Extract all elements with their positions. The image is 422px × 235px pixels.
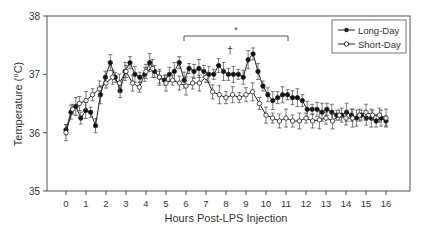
legend: Long-Day Short-Day — [332, 20, 406, 53]
x-tick-label: 11 — [281, 198, 291, 209]
x-tick-label: 5 — [163, 198, 168, 209]
open-circle-icon — [344, 42, 348, 46]
x-tick-label: 1 — [83, 198, 88, 209]
x-tick-label: 12 — [301, 198, 312, 209]
x-tick-label: 9 — [243, 198, 248, 209]
x-axis: 012345678910111213141516 — [63, 191, 391, 209]
x-tick-label: 3 — [123, 198, 128, 209]
x-tick-label: 7 — [203, 198, 208, 209]
y-axis: 35363738 — [29, 11, 47, 197]
chart: 35363738 012345678910111213141516 Temper… — [0, 0, 422, 235]
x-tick-label: 14 — [341, 198, 352, 209]
x-tick-label: 2 — [103, 198, 108, 209]
significance-asterisk: * — [234, 25, 238, 35]
data-series — [64, 48, 388, 141]
x-tick-label: 6 — [183, 198, 188, 209]
x-axis-label: Hours Post-LPS Injection — [165, 212, 288, 224]
significance-bracket: * — [184, 25, 288, 41]
x-tick-label: 8 — [223, 198, 228, 209]
y-tick-label: 36 — [29, 128, 41, 139]
legend-label: Long-Day — [358, 25, 399, 36]
y-tick-label: 38 — [29, 11, 41, 22]
x-tick-label: 0 — [63, 198, 68, 209]
x-tick-label: 13 — [321, 198, 332, 209]
y-axis-label: Temperature (°C) — [12, 62, 24, 146]
x-tick-label: 4 — [143, 198, 148, 209]
legend-label: Short-Day — [358, 39, 401, 50]
filled-circle-icon — [344, 28, 348, 32]
dagger-mark: † — [227, 45, 233, 56]
x-tick-label: 16 — [381, 198, 392, 209]
x-tick-label: 15 — [361, 198, 372, 209]
x-tick-label: 10 — [261, 198, 272, 209]
y-tick-label: 37 — [29, 69, 41, 80]
y-tick-label: 35 — [29, 186, 41, 197]
